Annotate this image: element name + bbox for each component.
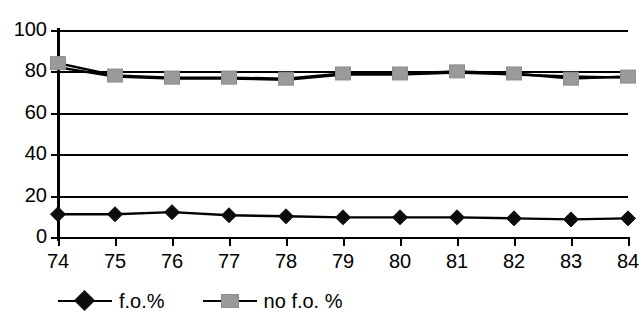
data-point [165,71,180,84]
legend-label-no-fo: no f.o. % [264,290,343,312]
data-point [507,211,522,226]
square-glyph [221,294,239,308]
data-point [450,210,465,225]
diamond-glyph [74,290,95,311]
chart-legend: f.o.% no f.o. % [58,286,343,316]
data-point [621,211,636,226]
data-point [165,205,180,220]
data-point [393,67,408,80]
data-point [222,208,237,223]
legend-item-no-fo[interactable]: no f.o. % [203,287,343,315]
line-chart: 020406080100 7475767778798081828384 f.o.… [0,0,640,325]
data-point [336,67,351,80]
data-point [51,57,66,70]
diamond-marker-icon [58,290,112,312]
series-layer [0,0,640,325]
data-point [279,209,294,224]
data-point [564,72,579,85]
data-point [393,210,408,225]
data-point [507,67,522,80]
data-point [336,210,351,225]
data-point [51,207,66,222]
data-point [621,70,636,83]
data-point [450,65,465,78]
legend-label-fo: f.o.% [119,290,165,312]
legend-item-fo[interactable]: f.o.% [58,287,165,315]
data-point [279,72,294,85]
data-point [108,207,123,222]
data-point [222,71,237,84]
data-point [108,69,123,82]
data-point [564,212,579,227]
square-marker-icon [203,290,257,312]
